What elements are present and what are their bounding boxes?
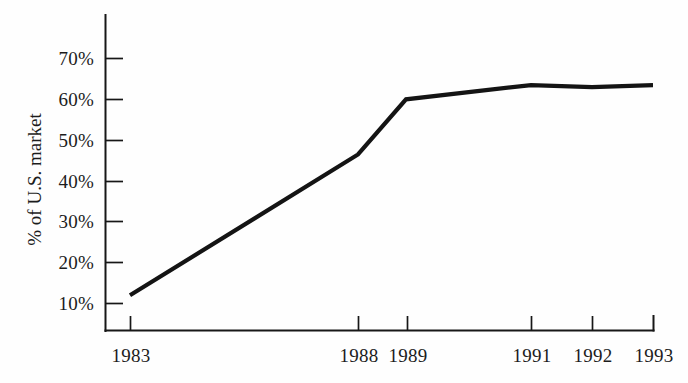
line-chart-figure: % of U.S. market 70% 60% 50% 40% 30% 20%… xyxy=(0,0,688,383)
y-tick-label-50: 50% xyxy=(20,131,94,150)
y-tick-label-60: 60% xyxy=(20,90,94,109)
y-tick-label-20: 20% xyxy=(20,253,94,272)
x-tick-label-1989: 1989 xyxy=(365,346,451,365)
x-tick-label-1993: 1993 xyxy=(611,346,688,365)
y-tick-label-40: 40% xyxy=(20,172,94,191)
chart-plot-area xyxy=(0,0,688,383)
x-tick-label-1983: 1983 xyxy=(88,346,174,365)
y-tick-label-70: 70% xyxy=(20,49,94,68)
y-tick-label-10: 10% xyxy=(20,294,94,313)
y-tick-label-30: 30% xyxy=(20,212,94,231)
market-share-line xyxy=(130,85,653,295)
